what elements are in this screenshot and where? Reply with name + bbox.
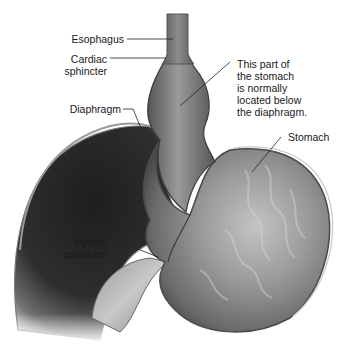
cardiac-sphincter-label: Cardiac sphincter xyxy=(55,53,107,77)
hernia-note-label: This part of the stomach is normally loc… xyxy=(237,58,346,118)
diaphragm-label: Diaphragm xyxy=(60,103,121,115)
hiatal-hernia-illustration xyxy=(0,0,346,345)
esophagus-label: Esophagus xyxy=(62,33,124,45)
stomach-label: Stomach xyxy=(288,131,346,143)
pyloric-sphincter-label: Pyloric sphincter xyxy=(58,236,106,260)
